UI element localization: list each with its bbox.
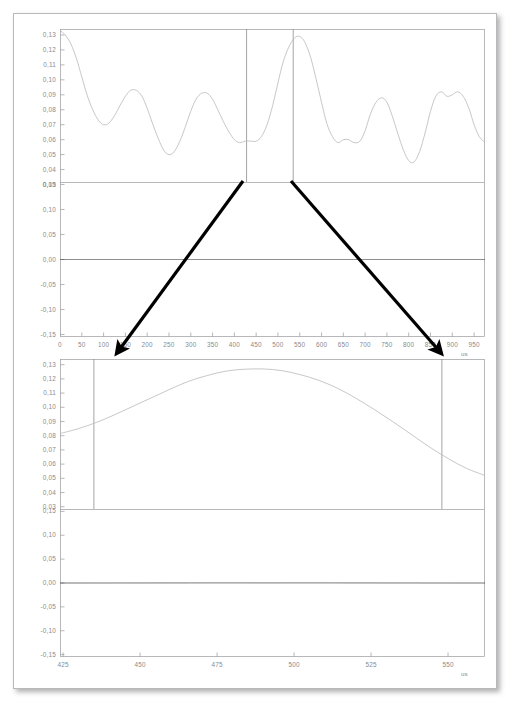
panel4-ytick-1: 0,10 <box>20 531 56 538</box>
panel4-ytick-0: 0,15 <box>20 507 56 514</box>
panel2-ytick-6: -0,15 <box>20 331 56 338</box>
panel3-ytick-2: 0,11 <box>20 389 56 396</box>
trace-envelope-zoom <box>60 369 485 476</box>
panel4-ytick-4: -0,05 <box>20 603 56 610</box>
chart-panel-waveform-overview[interactable] <box>60 182 485 337</box>
panel1-ytick-6: 0,07 <box>20 121 56 128</box>
panel2-xunit-label: us <box>461 350 468 357</box>
panel1-ytick-8: 0,05 <box>20 151 56 158</box>
panel2-ytick-2: 0,05 <box>20 231 56 238</box>
panel3-ytick-5: 0,08 <box>20 432 56 439</box>
panel4-xtick-0: 425 <box>49 661 77 668</box>
panel2-ytick-4: -0,05 <box>20 281 56 288</box>
panel3-ytick-4: 0,09 <box>20 418 56 425</box>
chart-panel-envelope-overview[interactable] <box>60 29 485 189</box>
document-page-frame: 0,130,120,110,100,090,080,070,060,050,04… <box>13 13 497 689</box>
panel1-ytick-3: 0,10 <box>20 76 56 83</box>
panel1-ytick-0: 0,13 <box>20 31 56 38</box>
screenshot-root: 0,130,120,110,100,090,080,070,060,050,04… <box>0 0 514 708</box>
panel1-ytick-1: 0,12 <box>20 46 56 53</box>
panel3-ytick-9: 0,04 <box>20 489 56 496</box>
panel2-ytick-5: -0,10 <box>20 306 56 313</box>
panel3-ytick-8: 0,05 <box>20 474 56 481</box>
chart-panel-waveform-zoom[interactable] <box>60 509 485 657</box>
panel2-ytick-0: 0,15 <box>20 181 56 188</box>
panel1-ytick-9: 0,04 <box>20 166 56 173</box>
panel2-ytick-3: 0,00 <box>20 256 56 263</box>
panel1-ytick-5: 0,08 <box>20 106 56 113</box>
panel4-xtick-1: 450 <box>126 661 154 668</box>
panel4-xtick-5: 550 <box>434 661 462 668</box>
panel1-ytick-7: 0,06 <box>20 136 56 143</box>
panel4-ytick-5: -0,10 <box>20 627 56 634</box>
panel3-ytick-3: 0,10 <box>20 403 56 410</box>
panel3-ytick-0: 0,13 <box>20 361 56 368</box>
document-page: 0,130,120,110,100,090,080,070,060,050,04… <box>14 14 496 688</box>
panel2-ytick-1: 0,10 <box>20 206 56 213</box>
panel4-xtick-2: 475 <box>203 661 231 668</box>
panel3-ytick-7: 0,06 <box>20 460 56 467</box>
panel1-ytick-2: 0,11 <box>20 61 56 68</box>
panel4-xtick-4: 525 <box>357 661 385 668</box>
panel4-xtick-3: 500 <box>280 661 308 668</box>
panel2-xtick-19: 950 <box>460 341 488 348</box>
panel4-ytick-3: 0,00 <box>20 579 56 586</box>
chart-panel-envelope-zoom[interactable] <box>60 359 485 511</box>
panel3-ytick-6: 0,07 <box>20 446 56 453</box>
panel4-ytick-2: 0,05 <box>20 555 56 562</box>
panel4-ytick-6: -0,15 <box>20 651 56 658</box>
panel1-ytick-4: 0,09 <box>20 91 56 98</box>
panel3-ytick-1: 0,12 <box>20 375 56 382</box>
panel4-xunit-label: us <box>461 670 468 677</box>
trace-envelope <box>60 31 485 163</box>
